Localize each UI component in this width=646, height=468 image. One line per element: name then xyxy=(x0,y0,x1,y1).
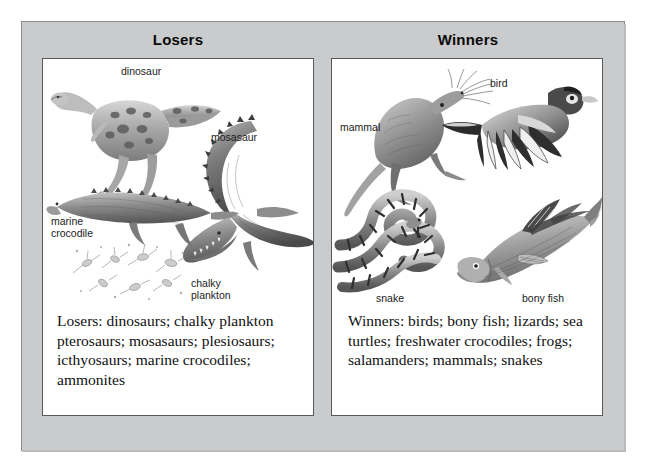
chalky-plankton-label-line1: chalky xyxy=(191,277,222,289)
dinosaur-label: dinosaur xyxy=(121,65,162,77)
chalky-plankton-label-line2: plankton xyxy=(191,289,231,301)
column-heading-winners: Winners xyxy=(333,31,603,48)
chalky-plankton-illustration xyxy=(73,244,187,300)
winners-summary-text: Winners: birds; bony fish; lizards; sea … xyxy=(332,311,602,370)
bony-fish-illustration xyxy=(457,197,602,285)
bird-illustration xyxy=(442,86,598,170)
extinction-winners-losers-figure: Losers Winners xyxy=(0,0,646,468)
marine-crocodile-label-line2: crocodile xyxy=(51,227,93,239)
winners-illustration-area: mammal xyxy=(332,59,602,309)
bird-label: bird xyxy=(490,77,508,89)
snake-illustration xyxy=(338,194,439,288)
mosasaur-label: mosasaur xyxy=(211,131,258,143)
marine-crocodile-label-line1: marine xyxy=(51,215,83,227)
mammal-label: mammal xyxy=(340,121,380,133)
losers-summary-text: Losers: dinosaurs; chalky plankton ptero… xyxy=(43,311,313,389)
snake-label: snake xyxy=(376,292,404,304)
losers-illustration-area: dinosaur xyxy=(43,59,313,309)
column-heading-losers: Losers xyxy=(43,31,313,48)
panel-losers: dinosaur xyxy=(42,58,314,416)
dinosaur-illustration xyxy=(51,92,221,204)
bony-fish-label: bony fish xyxy=(522,292,564,304)
panel-winners: mammal xyxy=(331,58,603,416)
